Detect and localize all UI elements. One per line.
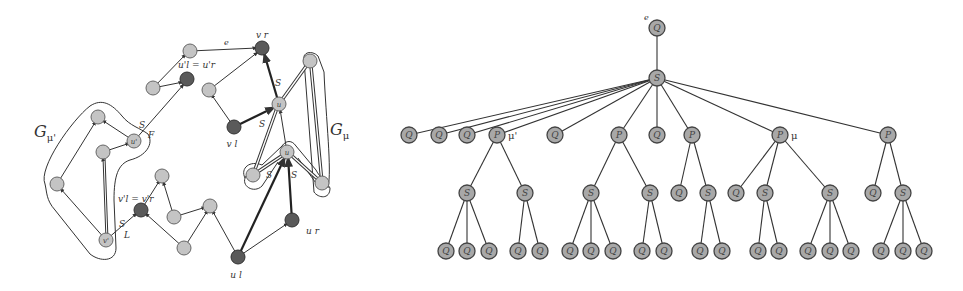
svg-text:Q: Q <box>485 246 493 256</box>
tree-edge <box>692 135 708 193</box>
tree-edge <box>619 135 650 193</box>
graph-node-vl <box>227 120 241 134</box>
svg-text:Q: Q <box>869 188 877 198</box>
tree-edge <box>497 78 657 135</box>
tree-node-p: P <box>880 127 896 143</box>
tree-root-label: e <box>644 13 649 22</box>
graph-node <box>315 176 329 190</box>
tree-edge <box>518 193 525 251</box>
tree-edge <box>570 193 591 251</box>
tree-node-q: Q <box>431 127 447 143</box>
label-v-prime: v' <box>103 237 109 245</box>
tree-node-q: Q <box>656 243 672 259</box>
tree-edge <box>708 193 722 251</box>
svg-text:Q: Q <box>435 130 443 140</box>
tree-node-q: Q <box>714 243 730 259</box>
tree-node-p: P <box>684 127 700 143</box>
svg-text:Q: Q <box>899 246 907 256</box>
svg-text:S: S <box>827 188 833 198</box>
svg-text:P: P <box>688 130 696 140</box>
svg-text:Q: Q <box>660 246 668 256</box>
tree-node-p: P <box>611 127 627 143</box>
tree-mu-prime-label: μ' <box>508 130 517 141</box>
graph-node <box>303 54 317 68</box>
tree-node-q: Q <box>532 243 548 259</box>
tree-node-q: Q <box>728 185 744 201</box>
svg-text:Q: Q <box>442 246 450 256</box>
tree-node-s: S <box>517 185 533 201</box>
tree-node-q: Q <box>605 243 621 259</box>
label-edge-e: e <box>224 38 229 47</box>
label-s: S <box>139 120 145 130</box>
svg-text:S: S <box>762 188 768 198</box>
graph-node <box>202 83 216 97</box>
tree-edge <box>881 193 903 251</box>
label-s: S <box>259 119 265 129</box>
tree-node-q: Q <box>750 243 766 259</box>
tree-node-q: Q <box>692 243 708 259</box>
label-vl: v l <box>227 139 238 149</box>
graph-node <box>167 210 181 224</box>
tree-edge <box>650 193 664 251</box>
tree-edge <box>446 193 467 251</box>
label-s: S <box>275 78 281 88</box>
tree-node-q: Q <box>459 127 475 143</box>
svg-text:P: P <box>493 130 501 140</box>
svg-text:S: S <box>588 188 594 198</box>
tree-node-q: Q <box>562 243 578 259</box>
graph-node-vr <box>255 41 269 55</box>
tree-node-q: Q <box>873 243 889 259</box>
svg-text:Q: Q <box>718 246 726 256</box>
tree-node-s: S <box>642 185 658 201</box>
tree-edge <box>467 135 497 193</box>
label-ul: u l <box>230 270 242 280</box>
svg-text:Q: Q <box>536 246 544 256</box>
svg-text:Q: Q <box>653 23 661 33</box>
svg-text:Q: Q <box>514 246 522 256</box>
tree-node-q: Q <box>916 243 932 259</box>
graph-node-ur <box>285 213 299 227</box>
svg-text:P: P <box>884 130 892 140</box>
svg-text:S: S <box>654 73 660 83</box>
tree-node-q: Q <box>510 243 526 259</box>
tree-node-q: Q <box>649 20 665 36</box>
svg-text:Q: Q <box>775 246 783 256</box>
svg-text:P: P <box>776 130 784 140</box>
tree-edge <box>679 135 692 193</box>
tree-edge <box>591 135 619 193</box>
svg-text:Q: Q <box>732 188 740 198</box>
tree-node-q: Q <box>547 127 563 143</box>
svg-text:Q: Q <box>920 246 928 256</box>
graph-node <box>96 145 110 159</box>
svg-text:Q: Q <box>463 130 471 140</box>
label-ur: u r <box>306 226 320 236</box>
graph-node <box>203 199 217 213</box>
tree-edge <box>619 78 657 135</box>
label-f: F <box>147 130 155 140</box>
svg-text:P: P <box>615 130 623 140</box>
svg-text:Q: Q <box>877 246 885 256</box>
tree-node-q: Q <box>843 243 859 259</box>
tree-node-q: Q <box>865 185 881 201</box>
tree-node-q: Q <box>634 243 650 259</box>
tree-edge <box>888 135 903 193</box>
graph-node <box>183 44 197 58</box>
svg-text:Q: Q <box>609 246 617 256</box>
tree-node-q: Q <box>649 127 665 143</box>
label-s: S <box>291 170 297 180</box>
graph-node-ul <box>231 250 245 264</box>
label-g-mu-prime: Gμ' <box>34 122 56 143</box>
tree-node-s: S <box>822 185 838 201</box>
tree-node-q: Q <box>800 243 816 259</box>
tree-node-s: S <box>583 185 599 201</box>
tree-edge <box>467 78 657 135</box>
graph-node <box>155 169 169 183</box>
tree-node-s: S <box>895 185 911 201</box>
svg-text:Q: Q <box>754 246 762 256</box>
tree-node-p: P <box>489 127 505 143</box>
label-ul-eq-ur-prime: u'l = u'r <box>178 60 216 70</box>
tree-node-s: S <box>459 185 475 201</box>
svg-text:S: S <box>705 188 711 198</box>
svg-text:S: S <box>522 188 528 198</box>
label-u-upper: u <box>277 101 282 109</box>
